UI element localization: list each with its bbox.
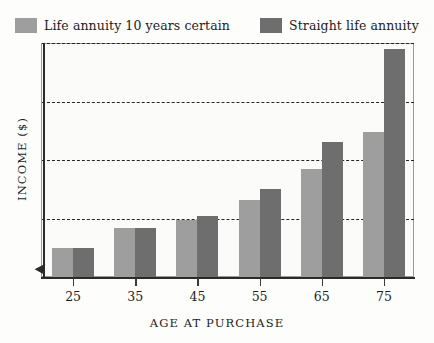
bar-group-65: [301, 43, 343, 277]
bar-65-series-1: [301, 169, 322, 277]
chart-legend: Life annuity 10 years certain Straight l…: [0, 12, 434, 38]
x-axis-line: [41, 277, 415, 279]
bar-group-45: [176, 43, 218, 277]
bar-group-55: [239, 43, 281, 277]
x-tick-mark: [260, 278, 261, 286]
bar-45-series-1: [176, 220, 197, 277]
legend-entry-straight-life-annuity[interactable]: Straight life annuity: [260, 18, 419, 33]
bar-35-series-1: [114, 228, 135, 277]
bar-45-series-2: [197, 216, 218, 277]
legend-swatch-icon: [15, 18, 37, 33]
chart-figure: Life annuity 10 years certain Straight l…: [0, 0, 434, 343]
legend-swatch-icon: [260, 18, 282, 33]
y-axis-line: [43, 43, 45, 279]
bar-65-series-2: [322, 142, 343, 277]
bar-25-series-2: [73, 248, 94, 277]
legend-label: Life annuity 10 years certain: [44, 18, 230, 33]
bar-55-series-1: [239, 200, 260, 277]
x-tick-mark: [197, 278, 198, 286]
x-tick-label-35: 35: [115, 289, 155, 304]
x-tick-label-45: 45: [177, 289, 217, 304]
bars-layer: [41, 43, 414, 277]
legend-label: Straight life annuity: [289, 18, 419, 33]
x-tick-mark: [73, 278, 74, 286]
bar-75-series-1: [363, 132, 384, 277]
x-tick-label-65: 65: [302, 289, 342, 304]
bar-25-series-1: [52, 248, 73, 277]
x-tick-mark: [384, 278, 385, 286]
x-tick-label-25: 25: [53, 289, 93, 304]
bar-75-series-2: [384, 49, 405, 277]
bar-group-35: [114, 43, 156, 277]
bar-group-25: [52, 43, 94, 277]
bar-35-series-2: [135, 228, 156, 277]
bar-group-75: [363, 43, 405, 277]
bar-55-series-2: [260, 189, 281, 277]
x-tick-mark: [135, 278, 136, 286]
x-axis-title: AGE AT PURCHASE: [0, 316, 434, 330]
y-axis-title: INCOME ($): [15, 89, 29, 229]
legend-entry-life-annuity-10-years-certain[interactable]: Life annuity 10 years certain: [15, 18, 230, 33]
x-tick-mark: [322, 278, 323, 286]
x-tick-label-55: 55: [240, 289, 280, 304]
x-tick-label-75: 75: [364, 289, 404, 304]
